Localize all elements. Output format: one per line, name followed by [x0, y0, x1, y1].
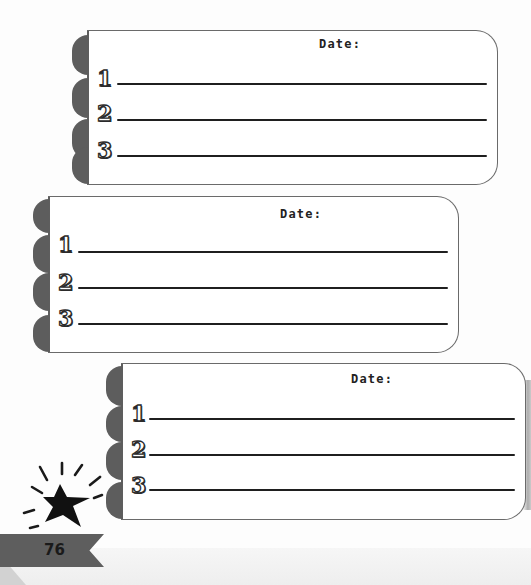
scallop-tab	[106, 366, 122, 406]
entry-line-2[interactable]	[117, 119, 487, 121]
scallop-tab	[33, 273, 49, 311]
scallop-tab	[72, 35, 88, 75]
star-burst-icon	[20, 455, 110, 535]
entry-line-1[interactable]	[78, 251, 448, 253]
entry-line-1[interactable]	[149, 418, 515, 420]
item-number-2: 2	[131, 436, 146, 462]
item-number-2: 2	[58, 269, 73, 295]
gratitude-card-3: Date: 1 2 3	[121, 363, 526, 520]
entry-line-3[interactable]	[149, 489, 515, 491]
item-number-1: 1	[131, 400, 146, 426]
date-label: Date:	[351, 372, 393, 386]
scallop-tab	[72, 147, 88, 184]
item-number-3: 3	[131, 472, 146, 498]
scallop-tab	[33, 315, 49, 352]
gratitude-card-1: Date: 1 2 3	[87, 30, 498, 185]
scallop-tab	[72, 78, 88, 118]
item-number-3: 3	[97, 137, 112, 163]
date-label: Date:	[280, 207, 322, 221]
item-number-1: 1	[97, 65, 112, 91]
gratitude-card-2: Date: 1 2 3	[48, 196, 459, 353]
entry-line-1[interactable]	[117, 83, 487, 85]
entry-line-2[interactable]	[78, 287, 448, 289]
scallop-tab	[33, 235, 49, 273]
page-number: 76	[44, 541, 65, 559]
item-number-2: 2	[97, 100, 112, 126]
entry-line-3[interactable]	[117, 155, 487, 157]
item-number-3: 3	[58, 305, 73, 331]
scallop-tab	[106, 406, 122, 442]
scallop-tab	[33, 199, 49, 233]
entry-line-3[interactable]	[78, 323, 448, 325]
item-number-1: 1	[58, 231, 73, 257]
entry-line-2[interactable]	[149, 454, 515, 456]
date-label: Date:	[319, 37, 361, 51]
